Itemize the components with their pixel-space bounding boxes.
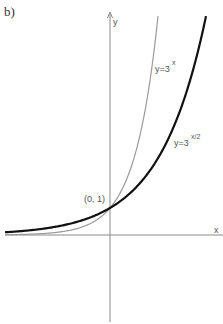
curve-3-pow-half-x xyxy=(5,16,206,232)
curve-label-3-pow-half-x: y=3 xyxy=(174,139,189,148)
y-axis-label: y xyxy=(113,18,118,27)
panel-label: b) xyxy=(4,4,15,20)
point-label: (0, 1) xyxy=(84,195,105,204)
curve-label-3-pow-half-x-exponent: x/2 xyxy=(191,133,200,140)
graph-canvas xyxy=(0,0,223,324)
curve-label-3-pow-x-exponent: x xyxy=(172,59,176,66)
x-axis-label: x xyxy=(214,226,219,235)
curve-3-pow-x xyxy=(5,16,158,235)
curve-label-3-pow-x: y=3 xyxy=(155,65,170,74)
